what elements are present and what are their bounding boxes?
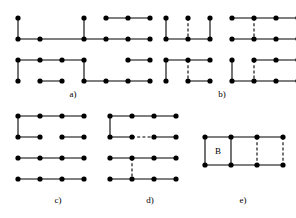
lattice-node [295,78,296,83]
panel-d-edges [110,116,176,179]
panel-c-nodes [15,113,86,181]
lattice-node [147,15,152,20]
lattice-node [273,57,278,62]
lattice-diagram-canvas [0,0,296,218]
lattice-node [15,113,20,118]
lattice-node [81,57,86,62]
lattice-node [81,36,86,41]
lattice-node [37,155,42,160]
lattice-node [81,134,86,139]
lattice-node [15,155,20,160]
lattice-node [295,36,296,41]
lattice-node [254,134,259,139]
lattice-node [173,134,178,139]
lattice-node [151,176,156,181]
lattice-node [59,134,64,139]
lattice-node [37,36,42,41]
lattice-node [129,134,134,139]
lattice-node [163,36,168,41]
panel-b-nodes [163,15,296,83]
figure-root: a)b)c)d)e)B [0,0,296,218]
lattice-node [295,57,296,62]
panel-label-c: c) [55,196,62,205]
lattice-node [280,134,285,139]
lattice-node [185,15,190,20]
lattice-node [207,78,212,83]
lattice-node [15,78,20,83]
lattice-node [37,78,42,83]
lattice-node [185,36,190,41]
panel-label-e: e) [240,196,247,205]
lattice-node [15,176,20,181]
lattice-node [15,134,20,139]
lattice-node [107,155,112,160]
edges-layer [18,18,296,179]
lattice-node [37,57,42,62]
lattice-node [251,15,256,20]
lattice-node [107,134,112,139]
panel-label-a: a) [70,90,77,99]
lattice-node [59,78,64,83]
lattice-node [59,113,64,118]
panel-d-nodes [107,113,178,181]
lattice-node [125,36,130,41]
nodes-layer [15,15,296,181]
lattice-node [37,176,42,181]
lattice-node [107,176,112,181]
lattice-node [151,113,156,118]
lattice-node [229,36,234,41]
lattice-node [151,155,156,160]
lattice-node [147,36,152,41]
lattice-node [81,15,86,20]
lattice-node [228,162,233,167]
lattice-node [81,176,86,181]
panel-a-edges [18,18,150,81]
lattice-node [37,113,42,118]
lattice-node [173,155,178,160]
lattice-node [229,78,234,83]
lattice-node [173,176,178,181]
lattice-node [207,15,212,20]
lattice-node [147,78,152,83]
lattice-node [103,78,108,83]
lattice-node [273,78,278,83]
lattice-node [103,36,108,41]
panel-label-d: d) [146,196,154,205]
cell-label-b: B [215,147,221,156]
lattice-node [129,155,134,160]
lattice-node [129,113,134,118]
lattice-node [229,57,234,62]
lattice-node [15,57,20,62]
lattice-node [251,78,256,83]
lattice-node [202,134,207,139]
panel-label-b: b) [218,90,226,99]
lattice-node [185,78,190,83]
lattice-node [251,36,256,41]
lattice-node [81,78,86,83]
lattice-node [295,15,296,20]
lattice-node [81,113,86,118]
lattice-node [163,78,168,83]
lattice-node [107,113,112,118]
lattice-node [147,57,152,62]
lattice-node [207,36,212,41]
panel-c-edges [18,116,84,179]
lattice-node [59,176,64,181]
lattice-node [185,57,190,62]
lattice-node [129,176,134,181]
lattice-node [59,155,64,160]
lattice-node [229,15,234,20]
lattice-node [273,36,278,41]
lattice-node [103,15,108,20]
lattice-node [59,57,64,62]
lattice-node [125,57,130,62]
lattice-node [228,134,233,139]
lattice-node [15,15,20,20]
lattice-node [163,57,168,62]
lattice-node [202,162,207,167]
lattice-node [273,15,278,20]
lattice-node [15,36,20,41]
lattice-node [251,57,256,62]
panel-b-edges [166,18,296,81]
lattice-node [151,134,156,139]
